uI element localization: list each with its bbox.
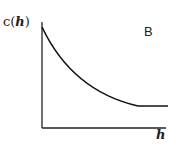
y-label-suffix: ) bbox=[25, 14, 30, 29]
y-label-prefix: c( bbox=[3, 14, 15, 29]
x-axis-label: h bbox=[156, 128, 165, 141]
panel-label: B bbox=[144, 25, 153, 38]
y-axis-label: c(h) bbox=[3, 15, 30, 28]
y-label-var: h bbox=[15, 14, 24, 29]
